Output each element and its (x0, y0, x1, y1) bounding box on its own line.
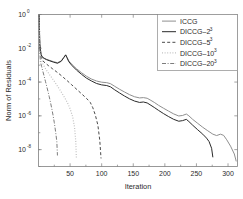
x-tick-label: 250 (191, 170, 203, 177)
series-line-diccg-5-3 (39, 15, 101, 159)
y-tick-label: 10 (18, 112, 26, 119)
chart-canvas: 5010015020025030010010-210-410-610-8 Ite… (0, 0, 243, 199)
y-tick-label: 10 (18, 45, 26, 52)
legend-label-exponent: 3 (210, 27, 213, 32)
x-tick-label: 100 (96, 170, 108, 177)
legend-label-exponent: 3 (214, 48, 217, 53)
legend-label[interactable]: DICCG–20 (180, 60, 214, 67)
legend-label-exponent: 3 (214, 59, 217, 64)
y-tick-exponent: -8 (27, 144, 32, 149)
residual-convergence-chart: 5010015020025030010010-210-410-610-8 Ite… (0, 0, 243, 199)
y-tick-exponent: -4 (27, 77, 32, 82)
y-tick-label: 10 (18, 11, 26, 18)
series-line-diccg-10-3 (39, 15, 76, 159)
y-tick-exponent: -2 (27, 43, 32, 48)
legend-label[interactable]: DICCG–10 (180, 50, 214, 57)
y-tick-exponent: 0 (27, 9, 30, 14)
y-tick-label: 10 (18, 79, 26, 86)
x-axis-title: Iteration (125, 182, 152, 191)
series-line-diccg-20-3 (39, 15, 57, 156)
y-tick-label: 10 (18, 146, 26, 153)
x-tick-label: 300 (222, 170, 234, 177)
y-axis-title: Norm of Residuals (4, 60, 13, 121)
legend-label[interactable]: DICCG–5 (180, 39, 210, 46)
x-tick-label: 200 (159, 170, 171, 177)
legend-label[interactable]: DICCG–2 (180, 28, 210, 35)
chart-legend[interactable]: ICCGDICCG–23DICCG–53DICCG–103DICCG–203 (158, 15, 238, 71)
legend-label-exponent: 3 (210, 37, 213, 42)
y-tick-exponent: -6 (27, 111, 32, 116)
x-tick-label: 150 (127, 170, 139, 177)
x-tick-label: 50 (66, 170, 74, 177)
legend-label[interactable]: ICCG (180, 18, 198, 25)
